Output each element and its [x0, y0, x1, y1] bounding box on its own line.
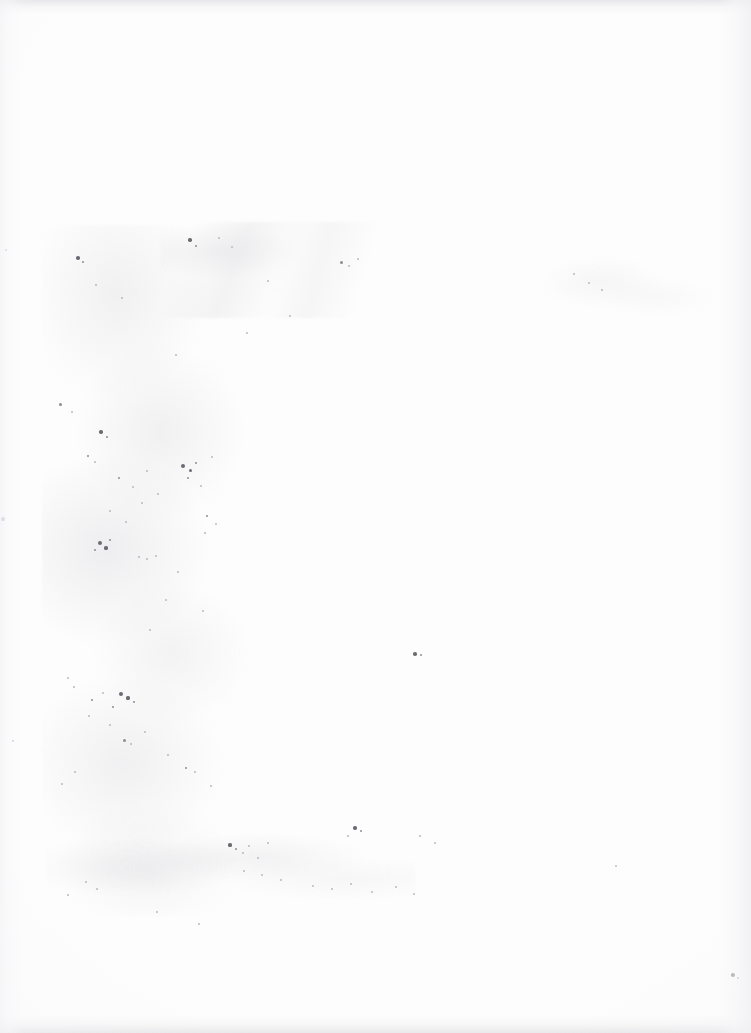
scan-edge-shadow-right [717, 0, 751, 1033]
scanned-page [0, 0, 751, 1033]
scan-edge-shadow-top [0, 0, 751, 14]
paper-background [0, 0, 751, 1033]
scan-edge-shadow-bottom [0, 1015, 751, 1033]
scan-edge-shadow-left [0, 0, 26, 1033]
